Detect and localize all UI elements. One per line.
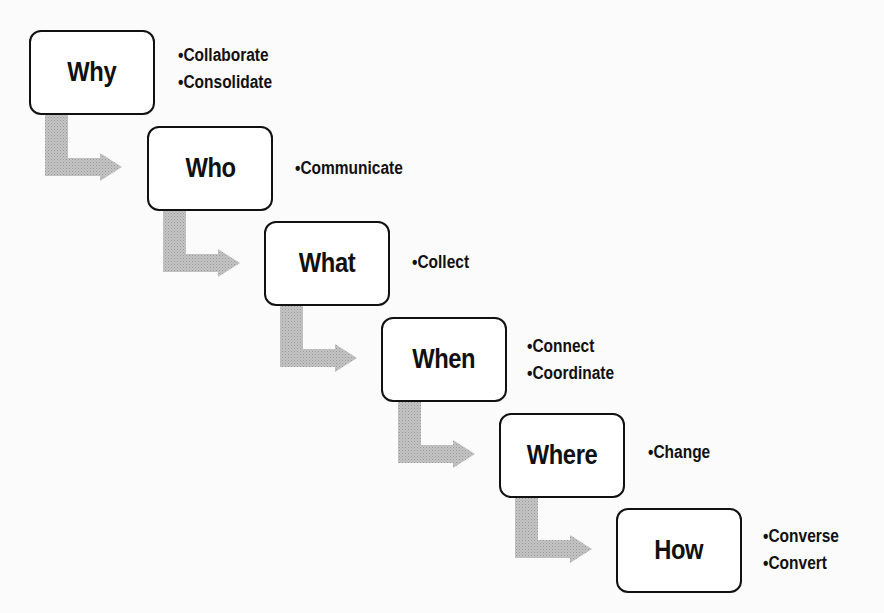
step-label: Why (68, 57, 117, 88)
bullet-item: Convert (763, 550, 839, 577)
step-label: How (655, 535, 704, 566)
arrow-what-to-when (280, 306, 357, 372)
step-label: When (413, 344, 476, 375)
bullet-item: Connect (527, 333, 614, 360)
arrow-when-to-where (398, 402, 475, 468)
step-label: What (299, 248, 355, 279)
bullet-item: Collaborate (178, 42, 272, 69)
step-box-where: Where (499, 413, 625, 498)
staircase-diagram: Why Collaborate Consolidate Who Communic… (0, 0, 884, 613)
step-label: Who (185, 153, 235, 184)
step-label: Where (527, 440, 597, 471)
arrow-who-to-what (163, 211, 240, 277)
bullet-item: Change (648, 439, 710, 466)
bullet-item: Consolidate (178, 69, 272, 96)
step-box-who: Who (147, 126, 273, 211)
bullet-item: Converse (763, 523, 839, 550)
step-bullets-when: Connect Coordinate (527, 333, 628, 387)
step-box-what: What (264, 221, 390, 306)
arrow-why-to-who (45, 115, 122, 181)
arrow-where-to-how (515, 497, 592, 563)
step-bullets-how: Converse Convert (763, 523, 851, 577)
step-box-why: Why (29, 30, 155, 115)
step-bullets-who: Communicate (295, 155, 420, 182)
bullet-item: Coordinate (527, 360, 614, 387)
step-bullets-why: Collaborate Consolidate (178, 42, 287, 96)
step-box-how: How (616, 508, 742, 593)
step-box-when: When (381, 317, 507, 402)
step-bullets-where: Change (648, 439, 720, 466)
step-bullets-what: Collect (412, 249, 478, 276)
bullet-item: Collect (412, 249, 469, 276)
bullet-item: Communicate (295, 155, 403, 182)
